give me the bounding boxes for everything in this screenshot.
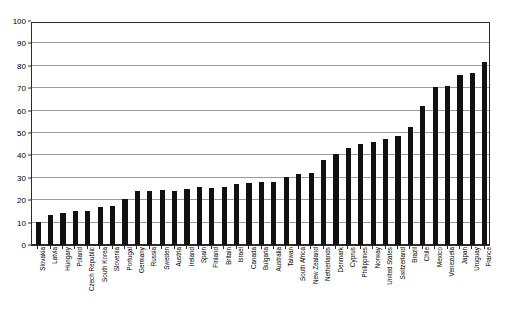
bar	[445, 86, 450, 245]
x-tick-mark	[186, 246, 187, 249]
x-axis-label: New Zealand	[313, 247, 319, 284]
x-axis-label: Philippines	[362, 247, 368, 277]
x-axis-label: Netherlands	[325, 247, 331, 281]
bar	[122, 199, 127, 245]
bar	[296, 174, 301, 245]
x-axis-label: Germany	[139, 247, 145, 273]
bar	[433, 87, 438, 245]
bar	[259, 182, 264, 245]
bar	[209, 188, 214, 245]
bar	[309, 173, 314, 245]
bar	[60, 213, 65, 245]
x-tick-mark	[310, 246, 311, 249]
bar	[147, 191, 152, 245]
x-axis-label: Spain	[201, 247, 207, 263]
bar	[482, 62, 487, 245]
y-tick-label-60: 60	[17, 108, 26, 116]
y-tick-label-40: 40	[17, 152, 26, 160]
bar	[73, 211, 78, 245]
x-axis-labels: SlovakiaLatviaHungaryPolandCzech Republi…	[31, 247, 490, 326]
x-axis-label: Japan	[462, 247, 468, 264]
x-axis-label: Venezuela	[449, 247, 455, 276]
y-tick-label-80: 80	[17, 63, 26, 71]
bar	[358, 144, 363, 245]
x-axis-label: Switzerland	[400, 247, 406, 280]
y-axis: 0102030405060708090100	[0, 22, 31, 246]
x-axis-label: Austria	[176, 247, 182, 267]
bar	[184, 189, 189, 245]
x-axis-label: United States	[387, 247, 393, 285]
bar	[36, 222, 41, 245]
bar	[110, 206, 115, 245]
y-tick-label-0: 0	[22, 242, 26, 250]
bar	[48, 215, 53, 245]
x-axis-label: Russia	[151, 247, 157, 266]
x-axis-label: Taiwan	[288, 247, 294, 267]
bar	[234, 184, 239, 245]
x-axis-label: Finland	[213, 247, 219, 268]
y-tick-label-50: 50	[17, 130, 26, 138]
bar	[346, 148, 351, 245]
bar	[420, 106, 425, 245]
x-tick-mark	[273, 246, 274, 249]
x-axis-label: France	[486, 247, 492, 267]
y-tick-label-10: 10	[17, 220, 26, 228]
x-axis-label: Canada	[251, 247, 257, 269]
bar-chart: 0102030405060708090100 SlovakiaLatviaHun…	[0, 0, 507, 326]
plot-area	[31, 22, 490, 246]
y-tick-label-100: 100	[13, 18, 26, 26]
y-tick-label-90: 90	[17, 40, 26, 48]
x-axis-label: Bulgaria	[263, 247, 269, 270]
bar	[383, 139, 388, 245]
bar	[371, 142, 376, 245]
x-axis-label: Slovakia	[40, 247, 46, 271]
x-tick-mark	[459, 246, 460, 249]
bar	[85, 211, 90, 245]
bar	[222, 187, 227, 245]
bar	[395, 136, 400, 245]
bar	[333, 154, 338, 245]
x-tick-mark	[62, 246, 63, 249]
bar	[135, 191, 140, 245]
y-tick-label-20: 20	[17, 197, 26, 205]
x-axis-label: Ireland	[189, 247, 195, 266]
x-tick-mark	[397, 246, 398, 249]
x-axis-label: Sweden	[164, 247, 170, 270]
x-tick-mark	[372, 246, 373, 249]
bar	[98, 207, 103, 245]
x-axis-label: Brazil	[412, 247, 418, 263]
x-axis-label: South Africa	[300, 247, 306, 281]
x-axis-label: Israel	[238, 247, 244, 262]
x-axis-label: Australia	[276, 247, 282, 272]
bar	[457, 75, 462, 245]
x-tick-mark	[248, 246, 249, 249]
x-axis-label: Denmark	[338, 247, 344, 273]
x-axis-label: Hungary	[65, 247, 71, 271]
x-axis-label: Slovenia	[114, 247, 120, 271]
bar	[408, 127, 413, 245]
x-axis-label: Portugal	[127, 247, 133, 270]
x-axis-label: Cyprus	[350, 247, 356, 267]
x-tick-mark	[124, 246, 125, 249]
x-tick-mark	[335, 246, 336, 249]
x-axis-label: Poland	[77, 247, 83, 267]
bar	[246, 183, 251, 245]
bar	[172, 191, 177, 245]
bars-layer	[32, 23, 489, 245]
bar	[271, 182, 276, 245]
x-axis-label: Latvia	[52, 247, 58, 264]
x-axis-label: South Korea	[102, 247, 108, 282]
x-axis-label: Uruguay	[474, 247, 480, 271]
bar	[197, 187, 202, 245]
bar	[321, 160, 326, 245]
x-axis-label: Norway	[375, 247, 381, 268]
bar	[160, 190, 165, 245]
y-tick-label-30: 30	[17, 175, 26, 183]
y-tick-label-70: 70	[17, 85, 26, 93]
x-axis-label: Czech Republic	[89, 247, 95, 291]
x-axis-label: Chile	[424, 247, 430, 261]
bar	[470, 73, 475, 245]
x-axis-label: Britain	[226, 247, 232, 265]
x-axis-label: Mexico	[437, 247, 443, 267]
bar	[284, 177, 289, 245]
